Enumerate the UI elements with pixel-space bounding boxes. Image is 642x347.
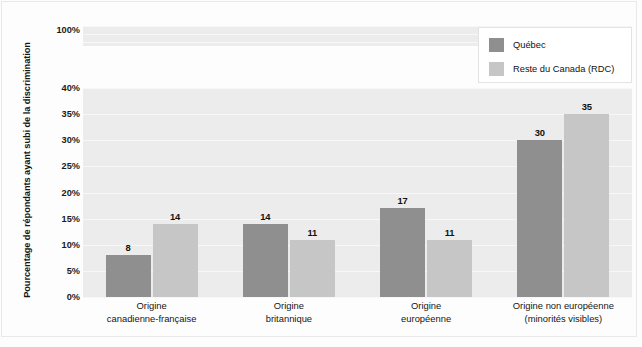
bar-value-label-quebec-1: 14 bbox=[260, 211, 270, 222]
category-label-1: Originebritannique bbox=[266, 300, 312, 325]
y-tick-5: 5% bbox=[67, 266, 80, 276]
y-tick-25: 25% bbox=[62, 161, 80, 171]
legend-item-quebec: Québec bbox=[489, 38, 546, 52]
bar-quebec-2 bbox=[380, 208, 425, 297]
bar-value-label-rdc-1: 11 bbox=[307, 227, 317, 238]
y-axis-title: Pourcentage de répondants ayant subi de … bbox=[22, 25, 32, 315]
x-axis-category-labels: Originecanadienne-françaiseOriginebritan… bbox=[83, 300, 632, 340]
bar-rdc-0 bbox=[153, 224, 198, 297]
y-axis-tick-labels: 100%40%35%30%25%20%15%10%5%0% bbox=[34, 0, 80, 347]
category-label-line: (minorités visibles) bbox=[513, 313, 614, 326]
bar-value-label-rdc-2: 11 bbox=[445, 227, 455, 238]
legend-label: Reste du Canada (RDC) bbox=[513, 64, 614, 74]
y-tick-35: 35% bbox=[62, 109, 80, 119]
bar-rdc-1 bbox=[290, 240, 335, 297]
bar-quebec-0 bbox=[106, 255, 151, 297]
y-tick-10: 10% bbox=[62, 240, 80, 250]
category-label-line: Origine bbox=[401, 300, 451, 313]
gridline-0 bbox=[83, 297, 632, 298]
bar-rdc-3 bbox=[564, 114, 609, 297]
chart-figure: Pourcentage de répondants ayant subi de … bbox=[0, 0, 642, 347]
category-label-line: Origine non européenne bbox=[513, 300, 614, 313]
bar-rdc-2 bbox=[427, 240, 472, 297]
bar-quebec-3 bbox=[517, 140, 562, 297]
legend-swatch-icon bbox=[489, 38, 504, 52]
bar-value-label-quebec-3: 30 bbox=[535, 127, 545, 138]
y-tick-100: 100% bbox=[57, 25, 81, 35]
category-label-line: européenne bbox=[401, 313, 451, 326]
bar-value-label-quebec-0: 8 bbox=[126, 242, 131, 253]
legend-item-rdc: Reste du Canada (RDC) bbox=[489, 62, 614, 76]
y-tick-30: 30% bbox=[62, 135, 80, 145]
legend-label: Québec bbox=[513, 40, 546, 50]
bar-value-label-rdc-0: 14 bbox=[170, 211, 180, 222]
category-label-2: Origineeuropéenne bbox=[401, 300, 451, 325]
bar-quebec-1 bbox=[243, 224, 288, 297]
bar-value-label-rdc-3: 35 bbox=[582, 101, 592, 112]
y-tick-20: 20% bbox=[62, 188, 80, 198]
chart-legend: QuébecReste du Canada (RDC) bbox=[478, 27, 632, 83]
category-label-3: Origine non européenne(minorités visible… bbox=[513, 300, 614, 325]
category-label-line: Origine bbox=[107, 300, 197, 313]
category-label-line: britannique bbox=[266, 313, 312, 326]
y-tick-0: 0% bbox=[67, 292, 80, 302]
y-tick-40: 40% bbox=[62, 83, 80, 93]
category-label-0: Originecanadienne-française bbox=[107, 300, 197, 325]
category-label-line: Origine bbox=[266, 300, 312, 313]
bar-value-label-quebec-2: 17 bbox=[397, 195, 407, 206]
category-label-line: canadienne-française bbox=[107, 313, 197, 326]
legend-swatch-icon bbox=[489, 62, 504, 76]
y-tick-15: 15% bbox=[62, 214, 80, 224]
